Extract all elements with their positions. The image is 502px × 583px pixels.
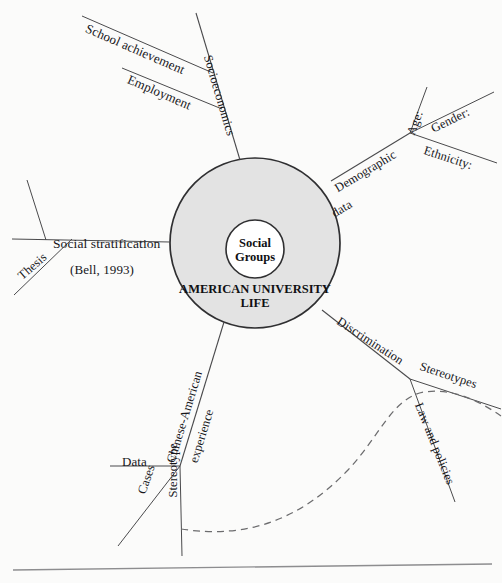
core-outer-label: AMERICAN UNIVERSITY LIFE bbox=[165, 282, 345, 310]
branch-sublabel-bell-1993: (Bell, 1993) bbox=[70, 262, 134, 278]
core-inner-label: Social Groups bbox=[205, 236, 305, 264]
branch-line-school-achievement bbox=[82, 16, 213, 73]
diagram-page: Social Groups AMERICAN UNIVERSITY LIFE S… bbox=[0, 0, 502, 583]
dashed-s-curve bbox=[181, 391, 501, 531]
branch-line-stratification-upper bbox=[27, 180, 46, 240]
branch-label-social-stratification: Social stratification bbox=[53, 236, 160, 252]
footer-rule bbox=[13, 564, 492, 570]
branch-label-stereotype: Stereotype bbox=[166, 443, 181, 497]
